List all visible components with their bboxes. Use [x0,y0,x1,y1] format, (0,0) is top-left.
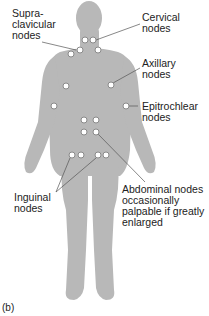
lymph-node-supraclavicular [77,47,83,53]
label-supraclavicular-nodes: Supra- clavicular nodes [12,8,56,41]
lymph-node-abdominal [81,129,87,135]
label-inguinal-nodes: Inguinal nodes [14,192,51,214]
lymph-node-cervical [90,37,96,43]
lymph-node-epitrochlear [123,103,129,109]
panel-label: (b) [2,302,14,313]
lymph-node-abdominal [93,129,99,135]
label-epitrochlear-nodes: Epitrochlear nodes [142,101,198,123]
lymph-node-abdominal [93,117,99,123]
lymph-node-inguinal [103,152,109,158]
label-cervical-nodes: Cervical nodes [142,12,180,34]
lymph-node-axillary [108,82,114,88]
lymph-node-axillary [63,83,69,89]
lymph-node-epitrochlear [51,103,57,109]
lymph-node-body-diagram [0,0,209,316]
lymph-node-abdominal [81,117,87,123]
body-silhouette [24,1,155,300]
label-abdominal-nodes: Abdominal nodes occasionally palpable if… [122,184,204,228]
lymph-node-inguinal [95,152,101,158]
lymph-node-supraclavicular [68,51,74,57]
lymph-node-inguinal [69,152,75,158]
lymph-node-inguinal [78,152,84,158]
label-axillary-nodes: Axillary nodes [142,58,176,80]
lymph-node-cervical [82,37,88,43]
lymph-node-cervical [95,47,101,53]
